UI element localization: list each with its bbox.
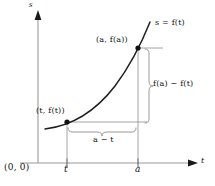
- y-axis-label: s: [29, 2, 33, 9]
- origin-label: (0, 0): [4, 163, 29, 172]
- vertical-brace-shape: [145, 49, 153, 123]
- point-label-t: (t, f(t)): [36, 107, 65, 115]
- x-axis-label: t: [201, 157, 204, 165]
- point-marker-a: [135, 45, 140, 50]
- point-marker-t: [64, 119, 69, 124]
- drop-lines: [67, 48, 138, 163]
- x-tick-label-a: a: [135, 165, 141, 174]
- point-label-a: (a, f(a)): [96, 36, 128, 44]
- y-axis: [35, 10, 42, 163]
- vertical-brace-label: f(a) − f(t): [153, 80, 193, 88]
- diagram-canvas: [0, 0, 215, 186]
- x-tick-label-t: t: [64, 165, 68, 174]
- curve-label: s = f(t): [155, 19, 185, 27]
- horizontal-brace-label: a − t: [93, 136, 114, 144]
- figure-container: s t (0, 0) t a s = f(t) (a, f(a)) (t, f(…: [0, 0, 215, 186]
- x-axis: [20, 160, 198, 167]
